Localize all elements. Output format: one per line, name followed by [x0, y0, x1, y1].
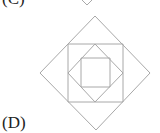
inner-diamond — [68, 44, 123, 102]
inner-square — [81, 58, 110, 87]
previous-figure-tip — [82, 0, 92, 5]
outer-square — [68, 44, 123, 102]
outer-diamond — [40, 16, 150, 130]
option-label-d: (D) — [2, 114, 26, 131]
